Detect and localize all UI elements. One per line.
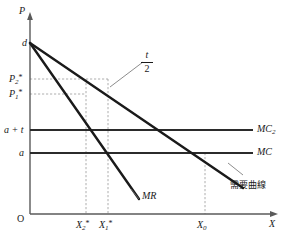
curve-demand [30, 43, 243, 188]
curve-label-mc: MC [257, 147, 272, 157]
curve-label-mc2: MC2 [257, 124, 276, 136]
curve-label-demand: 需要曲線 [230, 181, 266, 190]
y-tick-label-a: a [19, 148, 24, 158]
y-axis-arrow-icon [27, 12, 33, 20]
y-tick-label-a-plus-t: a + t [4, 125, 24, 135]
y-tick-label-p1: P1* [9, 89, 23, 101]
curve-mr [30, 43, 139, 199]
curve-label-mr: MR [142, 191, 156, 201]
origin-label: O [17, 214, 24, 224]
x-tick-label-x2: X2* [76, 220, 90, 232]
economics-diagram: d P2* P1* a + t a P X O X2* X1* X0 MC2 M… [0, 0, 286, 243]
diagram-canvas [0, 0, 286, 243]
y-tick-label-p2: P2* [9, 74, 23, 86]
revenue-curves [30, 43, 243, 199]
tax-numerator: t [141, 50, 153, 61]
guide-lines [30, 79, 205, 214]
leader-line-mr-label [131, 189, 139, 199]
annotation-tax-half: t 2 [141, 50, 153, 74]
y-axis-title: P [19, 6, 25, 16]
x-tick-label-x1: X1* [99, 220, 113, 232]
leader-line-tax-half [110, 62, 143, 87]
tax-denominator: 2 [141, 64, 153, 75]
y-tick-label-d: d [22, 38, 27, 48]
leader-line-demand-label [228, 163, 243, 175]
x-tick-label-x0: X0 [197, 220, 207, 232]
cost-curves [30, 130, 253, 153]
x-axis-arrow-icon [270, 211, 278, 217]
x-axis-title: X [269, 219, 275, 229]
